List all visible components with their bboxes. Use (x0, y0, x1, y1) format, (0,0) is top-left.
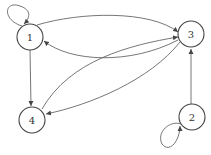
node-3-label: 3 (188, 29, 194, 40)
node-1-label: 1 (27, 32, 33, 43)
node-4-label: 4 (29, 115, 35, 126)
edge-2-2 (161, 123, 181, 147)
graph-diagram: 1 2 3 4 (0, 0, 211, 155)
edge-1-3 (37, 15, 178, 32)
edge-1-4 (30, 50, 31, 106)
edge-1-1 (8, 5, 29, 26)
graph-canvas: 1 2 3 4 (0, 0, 211, 155)
edge-3-1 (44, 40, 178, 58)
node-2-label: 2 (189, 112, 195, 123)
edge-4-3 (42, 37, 178, 109)
